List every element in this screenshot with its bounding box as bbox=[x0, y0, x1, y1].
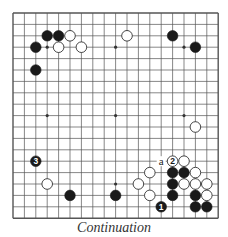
black-stone bbox=[179, 167, 190, 178]
move-number: 3 bbox=[33, 156, 38, 166]
black-stone bbox=[190, 190, 201, 201]
star-point bbox=[182, 46, 185, 49]
white-stone bbox=[53, 42, 64, 53]
white-stone bbox=[145, 167, 156, 178]
star-point bbox=[46, 46, 49, 49]
white-stone bbox=[122, 31, 133, 42]
white-stone bbox=[179, 156, 190, 167]
star-point bbox=[114, 114, 117, 117]
white-stone bbox=[202, 190, 213, 201]
black-stone bbox=[167, 167, 178, 178]
move-number: 1 bbox=[159, 202, 164, 212]
white-stone bbox=[202, 179, 213, 190]
black-stone bbox=[167, 190, 178, 201]
white-stone bbox=[65, 31, 76, 42]
board-markers: a bbox=[157, 155, 166, 167]
black-stone bbox=[31, 65, 42, 76]
black-stone bbox=[110, 190, 121, 201]
go-board: a 321 bbox=[0, 0, 228, 222]
black-stone bbox=[42, 31, 53, 42]
black-stone-move-1: 1 bbox=[156, 202, 167, 213]
diagram-caption: Continuation bbox=[0, 220, 228, 236]
black-stone bbox=[65, 190, 76, 201]
white-stone-move-2: 2 bbox=[167, 156, 178, 167]
black-stone bbox=[190, 202, 201, 213]
star-point bbox=[114, 46, 117, 49]
move-number: 2 bbox=[170, 156, 175, 166]
white-stone bbox=[133, 179, 144, 190]
black-stone bbox=[31, 42, 42, 53]
white-stone bbox=[42, 179, 53, 190]
white-stone bbox=[190, 122, 201, 133]
white-stone bbox=[190, 167, 201, 178]
black-stone-move-3: 3 bbox=[31, 156, 42, 167]
white-stone bbox=[76, 42, 87, 53]
black-stone bbox=[190, 42, 201, 53]
white-stone bbox=[145, 190, 156, 201]
star-point bbox=[46, 114, 49, 117]
star-point bbox=[114, 182, 117, 185]
black-stone bbox=[202, 202, 213, 213]
white-stone bbox=[190, 179, 201, 190]
black-stone bbox=[167, 179, 178, 190]
black-stone bbox=[53, 31, 64, 42]
point-label-a: a bbox=[159, 155, 164, 167]
black-stone bbox=[167, 31, 178, 42]
stones: 321 bbox=[31, 31, 213, 213]
star-point bbox=[182, 114, 185, 117]
white-stone bbox=[179, 179, 190, 190]
